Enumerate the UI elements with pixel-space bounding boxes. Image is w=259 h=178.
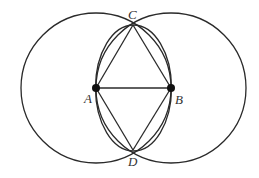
label-A: A [83, 91, 92, 106]
segment-CB [133, 25, 171, 88]
segment-AD [96, 88, 133, 150]
segment-AC [96, 25, 133, 88]
label-D: D [127, 154, 138, 169]
label-B: B [175, 92, 183, 107]
label-C: C [128, 7, 137, 22]
point-A [92, 84, 100, 92]
geometry-diagram: C A B D [0, 0, 259, 178]
segment-DB [133, 88, 171, 150]
point-B [167, 84, 175, 92]
